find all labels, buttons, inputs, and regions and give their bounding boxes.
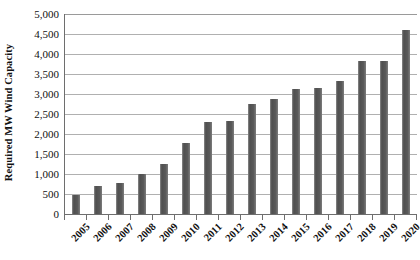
x-axis-tick-mark [372, 215, 373, 220]
x-axis-tick-label: 2013 [245, 221, 268, 244]
bar[interactable] [314, 88, 322, 214]
x-axis-tick-mark [108, 215, 109, 220]
y-axis-tick-label: 2,500 [34, 108, 59, 120]
x-axis-tick-label: 2007 [113, 221, 136, 244]
bar[interactable] [182, 143, 190, 214]
bar[interactable] [94, 186, 102, 214]
x-axis-tick-label: 2017 [333, 221, 356, 244]
bar-slot [329, 14, 351, 214]
x-axis-tick-label: 2011 [202, 221, 224, 243]
x-axis-tick-mark [416, 215, 417, 220]
y-axis-tick-labels: 5,0004,5004,0003,5003,0002,5002,0001,500… [18, 8, 63, 220]
x-axis-tick-label: 2008 [135, 221, 158, 244]
bar[interactable] [336, 81, 344, 214]
x-axis-tick-mark [394, 215, 395, 220]
x-axis-tick-label: 2005 [69, 221, 92, 244]
x-axis-tick-mark [262, 215, 263, 220]
bar[interactable] [380, 61, 388, 214]
x-axis-tick-label: 2019 [377, 221, 400, 244]
y-axis-title-label: Required MW Wind Capacity [4, 44, 15, 181]
bar-slot [87, 14, 109, 214]
x-axis-tick-labels: 2005200620072008200920102011201220132014… [64, 221, 416, 260]
x-axis-tick-label: 2015 [289, 221, 312, 244]
x-axis-tick-label: 2012 [223, 221, 246, 244]
y-axis-tick-label: 5,000 [34, 8, 59, 20]
bars-layer [65, 14, 417, 214]
bar-chart: Required MW Wind Capacity 5,0004,5004,00… [0, 0, 420, 260]
x-axis-tick-mark [174, 215, 175, 220]
bar[interactable] [160, 164, 168, 214]
y-axis-tick-label: 0 [54, 208, 60, 220]
x-axis-tick-mark [196, 215, 197, 220]
x-axis-tick-mark [350, 215, 351, 220]
x-axis-tick-mark [130, 215, 131, 220]
x-axis-tick-label: 2006 [91, 221, 114, 244]
bar-slot [373, 14, 395, 214]
bar[interactable] [292, 89, 300, 214]
bar[interactable] [358, 61, 366, 214]
bar-slot [131, 14, 153, 214]
y-axis-tick-label: 1,000 [34, 168, 59, 180]
bar[interactable] [402, 30, 410, 214]
y-axis-title: Required MW Wind Capacity [0, 0, 18, 225]
x-axis-tick-mark [86, 215, 87, 220]
bar-slot [241, 14, 263, 214]
bar-slot [351, 14, 373, 214]
bar-slot [263, 14, 285, 214]
x-axis-tick-mark [284, 215, 285, 220]
bar-slot [109, 14, 131, 214]
bar[interactable] [72, 195, 80, 214]
x-axis-tick-label: 2010 [179, 221, 202, 244]
bar-slot [153, 14, 175, 214]
y-axis-tick-label: 500 [43, 188, 60, 200]
bar-slot [175, 14, 197, 214]
y-axis-tick-label: 2,000 [34, 128, 59, 140]
y-axis-tick-label: 3,500 [34, 68, 59, 80]
y-axis-tick-label: 3,000 [34, 88, 59, 100]
x-axis-tick-label: 2009 [157, 221, 180, 244]
bar[interactable] [270, 99, 278, 214]
bar-slot [197, 14, 219, 214]
x-axis-tick-label: 2014 [267, 221, 290, 244]
x-axis-tick-mark [240, 215, 241, 220]
bar-slot [285, 14, 307, 214]
bar-slot [219, 14, 241, 214]
bar[interactable] [138, 174, 146, 214]
y-axis-tick-label: 4,000 [34, 48, 59, 60]
bar[interactable] [248, 104, 256, 214]
x-axis-tick-mark [218, 215, 219, 220]
x-axis-tick-label: 2016 [311, 221, 334, 244]
bar-slot [65, 14, 87, 214]
x-axis-tick-mark [328, 215, 329, 220]
y-axis-tick-label: 1,500 [34, 148, 59, 160]
bar[interactable] [204, 122, 212, 214]
x-axis-tick-label: 2020 [399, 221, 420, 244]
bar-slot [307, 14, 329, 214]
x-axis-tick-label: 2018 [355, 221, 378, 244]
bar[interactable] [116, 183, 124, 214]
y-axis-tick-label: 4,500 [34, 28, 59, 40]
x-axis-tick-mark [152, 215, 153, 220]
x-axis-tick-mark [306, 215, 307, 220]
bar[interactable] [226, 121, 234, 214]
plot-area [64, 14, 417, 215]
bar-slot [395, 14, 417, 214]
x-axis-tick-mark [64, 215, 65, 220]
